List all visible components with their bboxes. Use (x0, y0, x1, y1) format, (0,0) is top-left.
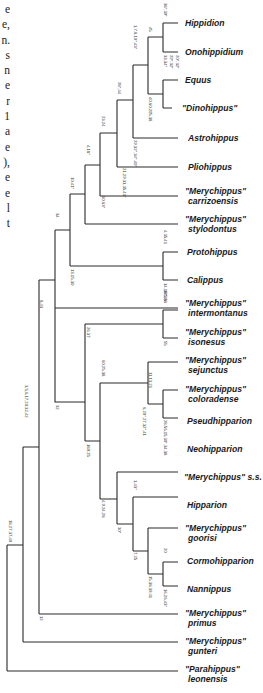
branch-corm-nann (163, 562, 178, 586)
node-label: 34 (55, 213, 60, 218)
taxon-merychippus-primus: "Merychippus"primus (185, 608, 246, 628)
branch-astro (133, 65, 178, 138)
branch-equinini (70, 194, 163, 266)
taxon-parahippus-leonensis: "Parahippus"leonensis (185, 664, 240, 684)
node-label: 28,56,15,30*,34,38 (163, 420, 168, 455)
branch-primus (39, 280, 178, 614)
taxon-merychippus-stylodontus: "Merychippus"stylodontus (185, 214, 246, 234)
taxon-merychippus-isonesus: "Merychippus"isonesus (185, 327, 246, 347)
taxon-equus: Equus (185, 75, 211, 85)
node-label: 38*,39* (163, 3, 168, 17)
node-label: 7,25 (133, 552, 138, 560)
node-label: 60,63* (101, 196, 106, 208)
taxon-cormohipparion: Cormohipparion (187, 556, 254, 566)
taxon-hippidion: Hippidion (185, 18, 225, 28)
branch-equus-dino (163, 80, 178, 108)
node-label: 18,27,37,40 (8, 520, 13, 542)
node-label: 26,37 (86, 327, 91, 337)
node-label: 13,15,30 (70, 269, 75, 285)
node-label: 29*,32* (169, 55, 174, 69)
branch-hipp-ono (163, 23, 178, 52)
node-label: 8,43 (39, 300, 44, 308)
branch-hipparion (133, 497, 178, 551)
branch-proto-cal (163, 252, 178, 280)
node-label: 28*,44 (117, 82, 122, 94)
taxon-astrohippus: Astrohippus (188, 133, 239, 143)
taxon-dinohippus: "Dinohippus" (182, 103, 237, 113)
taxon-calippus: Calippus (187, 275, 223, 285)
taxon-pseudhipparion: Pseudhipparion (187, 416, 252, 426)
node-label: 20 (163, 548, 168, 553)
node-label: 15,38,39,41 (148, 576, 153, 598)
branch-root (7, 545, 178, 671)
node-label: 32 (55, 405, 60, 410)
node-label: 189,25 (86, 444, 91, 457)
node-label: 55 (163, 341, 168, 346)
node-label: 16,26,43* (163, 589, 168, 607)
node-label: 185,38 (163, 290, 168, 303)
taxon-pliohippus: Pliohippus (188, 162, 232, 172)
node-label: 4,18* (86, 145, 91, 155)
branch-equinae-join (55, 308, 85, 402)
node-label: 40,60,205,38 (148, 97, 153, 121)
node-label: 1,43* (133, 480, 138, 490)
node-label: 20*,32* (175, 55, 180, 69)
taxon-merychippus-carrizoensis: "Merychippus"carrizoensis (185, 186, 246, 206)
taxon-protohippus: Protohippus (187, 247, 238, 257)
taxon-nannippus: Nannippus (187, 584, 231, 594)
branch-carr (100, 133, 178, 196)
cladogram-figure: e e, n. s n e r 1 a e ), e e l t (0, 0, 263, 693)
node-label: 29,32*,34*,40* (133, 140, 138, 167)
branch-styl (85, 165, 178, 224)
taxon-merychippus-coloradense: "Merychippus"coloradense (185, 384, 246, 404)
branch-pseud-neo (163, 390, 178, 418)
taxon-merychippus-goorisi: "Merychippus"goorisi (185, 523, 246, 543)
node-label: 6,20*,27,32*,41 (142, 407, 147, 436)
node-label: 4,9,24,28 (101, 500, 106, 517)
node-label: 1,7,8,10*,43* (133, 25, 138, 49)
branch-hipparionini-inner (100, 383, 148, 499)
node-label: 10,41* (70, 177, 75, 189)
node-label: 45 (148, 27, 153, 32)
branch-equini-core (148, 37, 163, 94)
node-label: 12 (39, 616, 44, 621)
node-label: 4,35,41 (163, 230, 168, 244)
node-label: 11,13,21 (148, 372, 153, 388)
node-label: 60,25,38 (101, 360, 106, 376)
node-label: 21,29,31,35,43* (122, 168, 127, 198)
branch-ss (117, 472, 178, 524)
node-label: 30* (117, 527, 122, 533)
taxon-neohipparion: Neohipparion (187, 444, 242, 454)
taxon-merychippus-ss: "Merychippus" s.s. (184, 472, 262, 482)
taxon-merychippus-intermontanus: "Merychippus"intermontanus (185, 298, 248, 318)
node-label: 23,24 (101, 116, 106, 126)
taxon-merychippus-gunteri: "Merychippus"gunteri (185, 636, 246, 656)
taxon-hipparion: Hipparion (187, 500, 227, 510)
node-label: 33,34* (163, 55, 168, 67)
taxon-merychippus-sejunctus: "Merychippus"sejunctus (185, 355, 246, 375)
taxon-onohippidium: Onohippidium (185, 47, 243, 57)
branch-iso-sej (163, 310, 178, 338)
node-label: 3,5,6,17,20,32,42 (24, 385, 29, 418)
